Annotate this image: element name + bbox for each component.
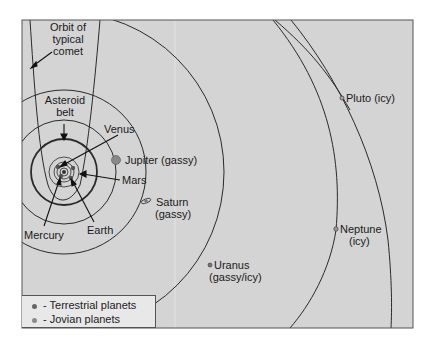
mercury-label: Mercury [24, 229, 64, 241]
uranus-planet [208, 263, 212, 267]
venus-label: Venus [104, 123, 135, 135]
terrestrial-dot-icon [32, 304, 37, 309]
legend-jovian: - Jovian planets [32, 313, 120, 325]
legend: - Terrestrial planets - Jovian planets [22, 295, 156, 328]
jovian-dot-icon [32, 318, 37, 323]
mercury-planet [59, 174, 63, 178]
pluto-label: Pluto (icy) [346, 92, 395, 104]
neptune-planet [334, 227, 338, 231]
jupiter-planet [112, 156, 121, 165]
legend-terrestrial: - Terrestrial planets [32, 299, 136, 311]
earth-label: Earth [87, 224, 113, 236]
sun [62, 170, 66, 174]
mars-planet [71, 166, 75, 170]
uranus-label: Uranus (gassy/icy) [213, 259, 262, 283]
neptune-label: Neptune (icy) [340, 223, 382, 247]
comet-label: Orbit of typical comet [46, 21, 90, 57]
pluto-planet [340, 96, 344, 100]
saturn-label: Saturn (gassy) [155, 196, 191, 220]
mars-label: Mars [122, 174, 146, 186]
jupiter-label: Jupiter (gassy) [125, 154, 197, 166]
asteroid-belt-label: Asteroid belt [44, 94, 86, 118]
